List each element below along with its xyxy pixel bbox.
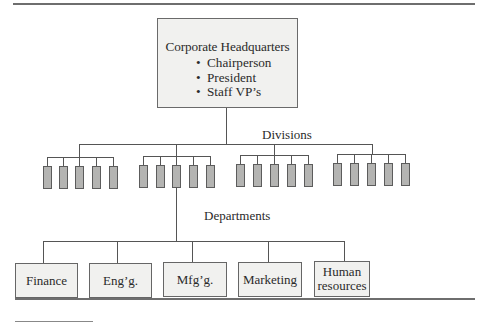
connector: [337, 154, 338, 163]
division-unit: [287, 164, 296, 187]
division-unit: [367, 163, 376, 186]
division-unit: [253, 164, 262, 187]
department-marketing: Marketing: [238, 262, 302, 297]
group-bar: [47, 157, 114, 158]
division-unit: [59, 166, 68, 189]
hq-trunk-line: [226, 108, 227, 145]
headquarters-box: Corporate Headquarters •Chairperson •Pre…: [157, 18, 298, 108]
bottom-rule: [15, 298, 475, 300]
departments-trunk-line: [176, 188, 177, 242]
division-unit: [333, 163, 342, 186]
departments-bar: [43, 241, 345, 242]
connector: [143, 156, 144, 165]
division-unit: [43, 166, 52, 189]
division-unit: [109, 166, 118, 189]
headquarters-members: •Chairperson •President •Staff VP’s: [196, 56, 271, 100]
connector: [47, 157, 48, 166]
division-unit: [75, 166, 84, 189]
connector: [117, 241, 118, 263]
department-manufacturing: Mfg’g.: [163, 262, 227, 297]
top-rule: [13, 3, 475, 5]
group-bar: [143, 156, 211, 157]
division-unit: [189, 165, 198, 188]
connector: [405, 154, 406, 163]
division-unit: [206, 165, 215, 188]
member-item: •Chairperson: [196, 56, 271, 71]
connector: [257, 155, 258, 164]
divisions-bar: [79, 144, 373, 145]
member-item: •Staff VP’s: [196, 85, 271, 100]
connector: [63, 157, 64, 166]
division-unit: [304, 164, 313, 187]
division-unit: [139, 165, 148, 188]
division-group-drop: [372, 144, 373, 154]
department-engineering: Eng’g.: [89, 263, 152, 298]
connector: [193, 156, 194, 165]
division-unit: [401, 163, 410, 186]
division-unit: [350, 163, 359, 186]
connector: [371, 154, 372, 163]
connector: [43, 241, 44, 263]
bullet-icon: •: [196, 71, 207, 86]
connector: [210, 156, 211, 165]
divisions-label: Divisions: [262, 127, 312, 143]
connector: [354, 154, 355, 163]
connector: [113, 157, 114, 166]
division-unit: [384, 163, 393, 186]
connector: [308, 155, 309, 164]
member-item: •President: [196, 71, 271, 86]
division-group-drop: [274, 144, 275, 155]
headquarters-title: Corporate Headquarters: [158, 39, 297, 55]
division-group-drop: [176, 144, 177, 156]
department-finance: Finance: [15, 263, 78, 298]
division-unit: [270, 164, 279, 187]
connector: [79, 157, 80, 166]
connector: [274, 155, 275, 164]
connector: [268, 241, 269, 263]
footnote-rule: [15, 321, 93, 322]
connector: [291, 155, 292, 164]
division-group-drop: [79, 144, 80, 157]
connector: [344, 241, 345, 262]
bullet-icon: •: [196, 56, 207, 71]
connector: [96, 157, 97, 166]
departments-label: Departments: [204, 208, 270, 224]
division-unit: [236, 164, 245, 187]
division-unit: [172, 165, 181, 188]
division-unit: [156, 165, 165, 188]
connector: [388, 154, 389, 163]
division-unit: [92, 166, 101, 189]
department-human-resources: Human resources: [314, 261, 370, 297]
bullet-icon: •: [196, 85, 207, 100]
connector: [176, 156, 177, 165]
connector: [240, 155, 241, 164]
connector: [160, 156, 161, 165]
connector: [192, 241, 193, 263]
